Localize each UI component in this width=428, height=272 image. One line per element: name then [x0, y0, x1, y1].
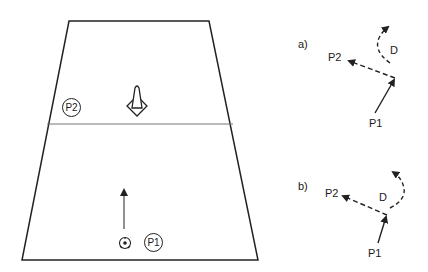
field — [22, 21, 258, 260]
diagram-a-label: a) — [298, 39, 308, 50]
pass-arrow-a — [349, 61, 395, 78]
diagram-a — [349, 27, 395, 113]
diagram-b-d-label: D — [379, 192, 387, 203]
field-outline — [22, 21, 258, 260]
diagram-a-p2-label: P2 — [328, 52, 341, 63]
diagram-canvas — [0, 0, 428, 272]
diagram-b-p2-label: P2 — [325, 188, 338, 199]
diagram-a-p1-label: P1 — [369, 118, 382, 129]
player-p2-marker: P2 — [62, 98, 81, 117]
diagram-b-label: b) — [298, 181, 308, 192]
d-curve-arrow-b — [390, 172, 404, 208]
p1-run-arrow-a — [375, 80, 394, 113]
cone-icon — [127, 86, 147, 116]
d-curve-arrow-a — [378, 27, 390, 63]
p1-run-arrow-b — [378, 217, 386, 243]
diagram-a-d-label: D — [390, 45, 398, 56]
diagram-b-p1-label: P1 — [368, 248, 381, 259]
diagram-b — [343, 172, 404, 243]
player-p1-marker: P1 — [144, 233, 163, 252]
ball-icon — [120, 238, 131, 249]
